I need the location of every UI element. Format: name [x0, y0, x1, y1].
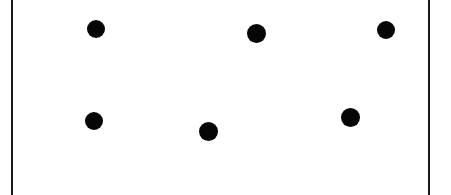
dot-plot-area: [13, 0, 428, 195]
right-rule-line: [428, 0, 430, 195]
scatter-dot: [87, 20, 105, 38]
scatter-dot: [247, 24, 266, 43]
scatter-dot: [199, 122, 218, 141]
figure-canvas: [0, 0, 451, 195]
scatter-dot: [341, 108, 360, 127]
scatter-dot: [85, 112, 103, 130]
scatter-dot: [377, 21, 395, 39]
